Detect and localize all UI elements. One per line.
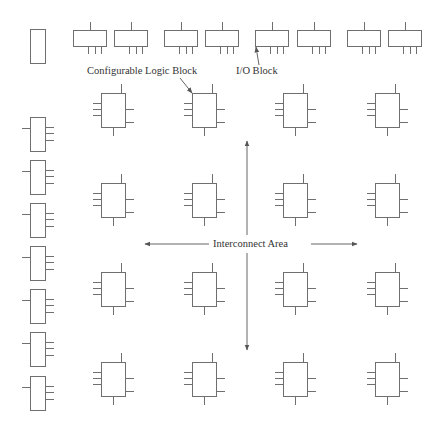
- clb-block: [275, 263, 316, 315]
- clb-block: [275, 174, 316, 226]
- clb-block: [367, 84, 408, 136]
- io-block: [256, 22, 289, 54]
- clb-block: [184, 263, 225, 315]
- clb-block: [93, 174, 134, 226]
- clb-block: [367, 353, 408, 405]
- clb-block: [184, 84, 225, 136]
- clb-block: [93, 353, 134, 405]
- interconnect-arrows: [145, 47, 357, 350]
- clb-label-arrow: [180, 78, 192, 93]
- clb-block: [93, 84, 134, 136]
- io-block: [22, 290, 54, 324]
- left-io-blocks: [22, 118, 54, 411]
- io-block: [22, 118, 54, 152]
- clb-block: [367, 263, 408, 315]
- io-block: [115, 22, 148, 54]
- io-block: [165, 22, 198, 54]
- corner-block: [31, 30, 46, 64]
- io-block: [74, 22, 107, 54]
- io-block: [206, 22, 239, 54]
- clb-label: Configurable Logic Block: [87, 65, 197, 77]
- io-block: [22, 247, 54, 281]
- clb-block: [184, 174, 225, 226]
- clb-block: [93, 263, 134, 315]
- io-block: [22, 333, 54, 367]
- io-block: [22, 204, 54, 238]
- top-io-blocks: [74, 22, 422, 54]
- io-label-arrow: [256, 47, 259, 65]
- io-block: [22, 377, 54, 411]
- io-block: [348, 22, 381, 54]
- clb-block: [275, 353, 316, 405]
- clb-block: [275, 84, 316, 136]
- io-block: [22, 161, 54, 195]
- clb-block: [184, 353, 225, 405]
- interconnect-label: Interconnect Area: [211, 238, 290, 250]
- io-block: [298, 22, 331, 54]
- clb-block: [367, 174, 408, 226]
- fpga-diagram: [0, 0, 436, 425]
- io-block-label: I/O Block: [236, 65, 278, 77]
- io-block: [389, 22, 422, 54]
